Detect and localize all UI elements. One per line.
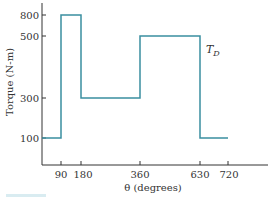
x-tick-label: 360: [130, 169, 149, 180]
y-tick-label: 100: [20, 133, 39, 144]
series-label-td: TD: [206, 43, 220, 58]
x-tick-label: 180: [73, 169, 92, 180]
y-tick-label: 300: [20, 93, 39, 104]
x-ticks: 90 180 360 630 720: [55, 161, 239, 180]
x-tick-label: 720: [219, 169, 238, 180]
x-axis-label: θ (degrees): [124, 182, 182, 193]
x-tick-label: 90: [55, 169, 68, 180]
torque-chart: 800 500 300 100 90 180 360 630 720 θ (de…: [0, 0, 280, 201]
figure-caption-fragment: [6, 194, 46, 197]
x-tick-label: 630: [190, 169, 209, 180]
y-tick-label: 800: [20, 10, 39, 21]
torque-step-line: [42, 15, 228, 138]
y-tick-label: 500: [20, 31, 39, 42]
y-axis-label: Torque (N-m): [4, 48, 15, 116]
